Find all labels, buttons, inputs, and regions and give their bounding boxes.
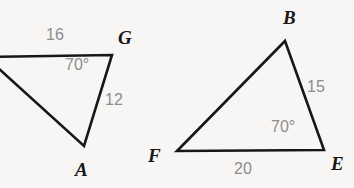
angle-measure-E-70: 70°: [271, 119, 295, 135]
angle-measure-G-70: 70°: [65, 57, 89, 73]
vertex-label-A: A: [75, 160, 88, 179]
geometry-figure: G A 16 12 70° B E F 15 20 70°: [0, 0, 354, 188]
triangle-BEF-outline: [177, 41, 324, 151]
triangle-GA-shape: [0, 55, 112, 146]
vertex-label-G: G: [118, 28, 132, 47]
vertex-label-F: F: [148, 146, 161, 165]
side-measure-12: 12: [105, 92, 123, 108]
side-measure-20: 20: [234, 161, 252, 177]
vertex-label-B: B: [283, 8, 296, 27]
side-measure-15: 15: [307, 79, 325, 95]
triangle-GA-outline: [0, 55, 112, 146]
side-measure-16: 16: [46, 27, 64, 43]
vertex-label-E: E: [331, 154, 344, 173]
triangle-BEF-shape: [177, 41, 324, 151]
